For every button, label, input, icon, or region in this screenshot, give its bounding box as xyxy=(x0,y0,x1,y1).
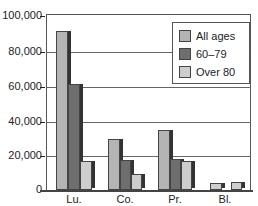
legend-item-60-79: 60–79 xyxy=(179,48,227,60)
x-label: Lu. xyxy=(59,193,89,205)
y-tick-label: 20,000 xyxy=(0,149,42,161)
x-label: Co. xyxy=(110,193,140,205)
bar-bl-2 xyxy=(231,182,242,190)
y-tick-label: 80,000 xyxy=(0,45,42,57)
y-tick-label: 0 xyxy=(0,183,42,195)
bar-lu-60-79 xyxy=(68,84,80,190)
bar-bl-1 xyxy=(210,183,222,190)
bar-pr-over-80 xyxy=(181,161,192,190)
bar-co-60-79 xyxy=(120,160,131,190)
bar-pr-all-ages xyxy=(158,130,170,190)
bar-lu-over-80 xyxy=(80,161,92,190)
legend-swatch xyxy=(179,66,191,78)
bar-co-all-ages xyxy=(108,139,120,190)
x-label: Pr. xyxy=(160,193,190,205)
legend: All ages 60–79 Over 80 xyxy=(172,22,250,84)
y-tick-label: 60,000 xyxy=(0,80,42,92)
legend-label: 60–79 xyxy=(196,48,227,60)
legend-item-all-ages: All ages xyxy=(179,30,235,42)
bar-co-over-80 xyxy=(131,174,142,190)
bar-lu-all-ages xyxy=(56,31,68,190)
y-tick-label: 100,000 xyxy=(0,9,42,21)
x-axis xyxy=(40,190,253,192)
x-label: Bl. xyxy=(210,193,240,205)
legend-swatch xyxy=(179,48,191,60)
legend-item-over-80: Over 80 xyxy=(179,66,235,78)
legend-label: All ages xyxy=(196,30,235,42)
bar-pr-60-79 xyxy=(170,159,181,190)
y-tick-label: 40,000 xyxy=(0,115,42,127)
legend-swatch xyxy=(179,30,191,42)
legend-label: Over 80 xyxy=(196,66,235,78)
